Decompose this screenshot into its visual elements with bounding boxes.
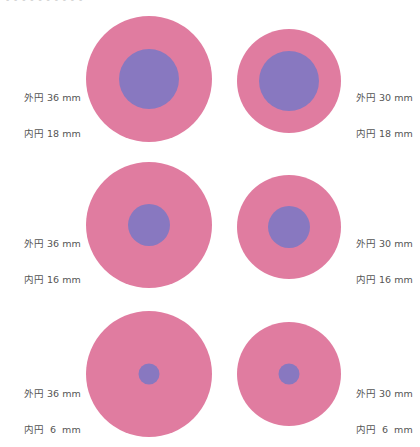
label-group: 外円 36 mm 内円 18 mm (24, 68, 81, 152)
inner-diameter-label: 内円 6 mm (24, 424, 81, 436)
inner-diameter-label: 内円 6 mm (356, 424, 413, 436)
label-group: 外円 36 mm 内円 6 mm (24, 364, 81, 447)
outer-circle (237, 322, 341, 426)
inner-circle (268, 206, 310, 248)
outer-circle (237, 29, 341, 133)
outer-circle (86, 16, 212, 142)
inner-circle (119, 49, 179, 109)
outer-circle (86, 311, 212, 437)
inner-circle (259, 51, 319, 111)
outer-diameter-label: 外円 30 mm (356, 238, 413, 250)
inner-circle (128, 204, 170, 246)
inner-diameter-label: 内円 16 mm (356, 274, 413, 286)
outer-diameter-label: 外円 36 mm (24, 238, 81, 250)
outer-diameter-label: 外円 36 mm (24, 388, 81, 400)
inner-diameter-label: 内円 16 mm (24, 274, 81, 286)
inner-circle (139, 364, 160, 385)
label-group: 外円 30 mm 内円 16 mm (356, 214, 413, 298)
label-group: 外円 36 mm 内円 16 mm (24, 214, 81, 298)
label-group: 外円 30 mm 内円 6 mm (356, 364, 413, 447)
outer-diameter-label: 外円 30 mm (356, 92, 413, 104)
inner-circle (279, 364, 300, 385)
outer-diameter-label: 外円 30 mm (356, 388, 413, 400)
outer-circle (86, 162, 212, 288)
outer-diameter-label: 外円 36 mm (24, 92, 81, 104)
label-group: 外円 30 mm 内円 18 mm (356, 68, 413, 152)
inner-diameter-label: 内円 18 mm (24, 128, 81, 140)
cropped-header-text: - - - - - - - - - - (6, 0, 83, 5)
outer-circle (237, 175, 341, 279)
inner-diameter-label: 内円 18 mm (356, 128, 413, 140)
